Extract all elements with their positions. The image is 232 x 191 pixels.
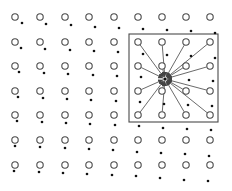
reference-circle bbox=[183, 88, 189, 94]
reference-circle bbox=[159, 63, 165, 69]
displaced-dot bbox=[66, 98, 69, 101]
displaced-dot bbox=[142, 28, 145, 31]
reference-circle bbox=[159, 162, 165, 168]
displaced-dot bbox=[160, 152, 163, 155]
reference-circle bbox=[37, 112, 43, 118]
displaced-dot bbox=[39, 146, 42, 149]
displaced-dot bbox=[94, 26, 97, 29]
reference-circle bbox=[135, 88, 141, 94]
displaced-dot bbox=[45, 23, 48, 26]
displaced-dot bbox=[135, 175, 138, 178]
displaced-dot bbox=[38, 171, 41, 174]
reference-circle bbox=[12, 137, 18, 143]
reference-circle bbox=[86, 162, 92, 168]
reference-circle bbox=[207, 39, 213, 45]
reference-circle bbox=[183, 14, 189, 20]
displaced-dot bbox=[21, 22, 24, 25]
displaced-dot bbox=[17, 96, 20, 99]
reference-circle bbox=[111, 63, 117, 69]
displaced-dot bbox=[159, 177, 162, 180]
reference-circle bbox=[207, 112, 213, 118]
reference-circle bbox=[111, 162, 117, 168]
displaced-dot bbox=[20, 47, 23, 50]
reference-circle bbox=[207, 63, 213, 69]
displaced-dot bbox=[208, 155, 211, 158]
reference-circle bbox=[62, 112, 68, 118]
displaced-dot bbox=[18, 71, 21, 74]
reference-circle bbox=[183, 39, 189, 45]
displaced-dot bbox=[117, 51, 120, 54]
displaced-dot bbox=[190, 30, 193, 33]
reference-circle bbox=[111, 88, 117, 94]
displaced-dot bbox=[16, 120, 19, 123]
displaced-dot bbox=[142, 53, 145, 56]
reference-circle bbox=[62, 162, 68, 168]
displaced-dot bbox=[187, 104, 190, 107]
displaced-dot bbox=[64, 147, 67, 150]
reference-circle bbox=[86, 137, 92, 143]
reference-circle bbox=[86, 112, 92, 118]
displaced-dot bbox=[115, 100, 118, 103]
reference-circle bbox=[159, 112, 165, 118]
displaced-dot bbox=[65, 122, 68, 125]
reference-circle bbox=[135, 14, 141, 20]
reference-circle bbox=[37, 137, 43, 143]
displaced-dot bbox=[139, 101, 142, 104]
reference-circle bbox=[62, 63, 68, 69]
reference-circle bbox=[12, 39, 18, 45]
displaced-dot bbox=[118, 27, 121, 30]
displaced-dot bbox=[93, 50, 96, 53]
displaced-dot bbox=[112, 149, 115, 152]
displaced-dot bbox=[210, 129, 213, 132]
reference-circle bbox=[86, 63, 92, 69]
reference-circle bbox=[62, 14, 68, 20]
reference-circle bbox=[12, 162, 18, 168]
displaced-dot bbox=[166, 54, 169, 57]
reference-circle bbox=[207, 162, 213, 168]
displaced-dot bbox=[14, 145, 17, 148]
reference-circle bbox=[159, 39, 165, 45]
reference-circle bbox=[207, 14, 213, 20]
reference-circle bbox=[135, 63, 141, 69]
displaced-dot bbox=[62, 172, 65, 175]
displaced-dot bbox=[43, 72, 46, 75]
displaced-dot bbox=[190, 55, 193, 58]
reference-circle bbox=[37, 14, 43, 20]
displaced-dot bbox=[214, 32, 217, 35]
displaced-dot bbox=[116, 75, 119, 78]
reference-circle bbox=[86, 14, 92, 20]
reference-circle bbox=[135, 162, 141, 168]
displaced-dot bbox=[90, 99, 93, 102]
reference-circle bbox=[135, 39, 141, 45]
displaced-dot bbox=[212, 80, 215, 83]
displaced-dot bbox=[42, 97, 45, 100]
displaced-dot bbox=[207, 180, 210, 183]
displaced-dot bbox=[69, 49, 72, 52]
displaced-dot bbox=[114, 124, 117, 127]
reference-circle bbox=[183, 112, 189, 118]
displaced-dot bbox=[162, 127, 165, 130]
reference-circle bbox=[135, 137, 141, 143]
reference-circle bbox=[62, 137, 68, 143]
reference-circle bbox=[12, 112, 18, 118]
reference-circle bbox=[159, 14, 165, 20]
reference-circle bbox=[37, 39, 43, 45]
displaced-dot bbox=[111, 174, 114, 177]
displaced-dot bbox=[41, 121, 44, 124]
reference-circle bbox=[37, 63, 43, 69]
reference-circle bbox=[183, 162, 189, 168]
reference-circle bbox=[86, 88, 92, 94]
reference-circle bbox=[183, 63, 189, 69]
displaced-dot bbox=[163, 103, 166, 106]
displaced-dot bbox=[92, 74, 95, 77]
reference-circle bbox=[159, 88, 165, 94]
reference-circle bbox=[86, 39, 92, 45]
reference-circle bbox=[207, 137, 213, 143]
displacement-grid-diagram bbox=[0, 0, 232, 191]
displaced-dot bbox=[136, 151, 139, 154]
reference-circle bbox=[159, 137, 165, 143]
reference-circle bbox=[111, 14, 117, 20]
reference-circle bbox=[111, 112, 117, 118]
displaced-dot bbox=[44, 48, 47, 51]
reference-circle bbox=[207, 88, 213, 94]
